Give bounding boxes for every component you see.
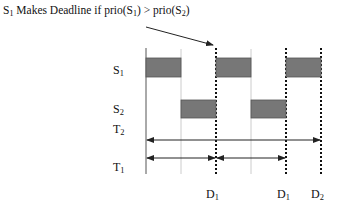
annotation-arrow bbox=[146, 27, 213, 45]
s2-exec-block bbox=[251, 100, 286, 118]
row-label-s1: S1 bbox=[113, 63, 124, 78]
s1-exec-block bbox=[286, 58, 321, 77]
deadline-label-d1: D1 bbox=[206, 187, 219, 202]
s1-exec-block bbox=[216, 58, 251, 77]
row-label-t1: T1 bbox=[113, 160, 125, 175]
row-label-s2: S2 bbox=[113, 102, 124, 117]
scheduling-diagram: S1 Makes Deadline if prio(S1) > prio(S2) bbox=[0, 0, 338, 209]
deadline-label-d1: D1 bbox=[277, 187, 290, 202]
s2-exec-block bbox=[181, 100, 216, 118]
row-label-t2: T2 bbox=[113, 122, 125, 137]
timeline-graphic bbox=[0, 0, 338, 209]
s1-exec-block bbox=[146, 58, 181, 77]
deadline-label-d2: D2 bbox=[311, 187, 324, 202]
